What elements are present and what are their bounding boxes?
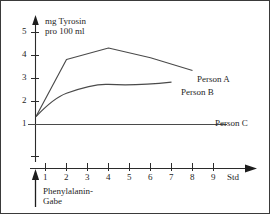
x-tick-label-4: 4 <box>106 173 111 183</box>
x-axis-ticks <box>46 163 214 171</box>
series-label-person-a: Person A <box>197 75 230 85</box>
series-line-person-b <box>36 82 172 116</box>
x-tick-label-9: 9 <box>211 173 216 183</box>
x-tick-label-6: 6 <box>148 173 153 183</box>
y-tick-label-5: 5 <box>22 27 27 37</box>
x-tick-label-5: 5 <box>127 173 132 183</box>
y-tick-label-2: 2 <box>22 96 27 106</box>
x-axis-unit-label: Std <box>227 173 239 183</box>
series-label-person-b: Person B <box>181 88 214 98</box>
x-tick-label-1: 1 <box>43 173 48 183</box>
chart-frame: mg Tyrosin pro 100 ml 5 4 3 2 1 1 2 3 4 … <box>0 0 270 214</box>
y-tick-label-4: 4 <box>22 50 27 60</box>
series-label-person-c: Person C <box>215 119 248 129</box>
y-tick-label-1: 1 <box>22 119 27 129</box>
x-axis-arrowhead <box>245 165 257 173</box>
y-tick-label-3: 3 <box>22 73 27 83</box>
x-tick-label-3: 3 <box>85 173 90 183</box>
x-tick-label-2: 2 <box>64 173 69 183</box>
x-tick-label-7: 7 <box>169 173 174 183</box>
x-tick-label-8: 8 <box>190 173 195 183</box>
phenylalanin-annotation-line2: Gabe <box>43 197 62 207</box>
y-axis-arrowhead <box>32 15 39 25</box>
y-axis-title-line2: pro 100 ml <box>45 27 85 37</box>
phenylalanin-dose-arrow <box>32 169 39 207</box>
